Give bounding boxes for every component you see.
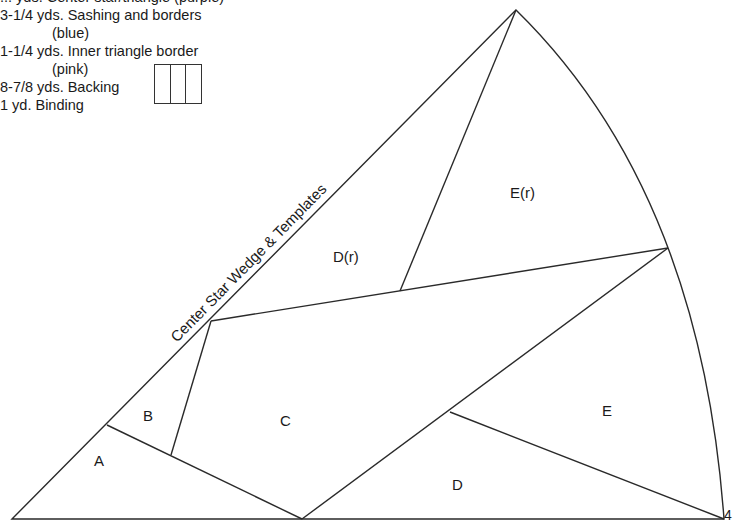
seam-d-e	[450, 412, 724, 519]
piece-label-er: E(r)	[510, 184, 535, 201]
wedge-title: Center Star Wedge & Templates	[167, 180, 330, 345]
wedge-outline	[12, 10, 724, 519]
piece-label-a: A	[94, 452, 104, 469]
piece-label-b: B	[143, 407, 153, 424]
seam-c-dr	[211, 248, 668, 321]
piece-label-e: E	[602, 402, 612, 419]
wedge-diagram: Center Star Wedge & Templates A B C D E …	[0, 0, 733, 521]
seam-dr-er	[400, 10, 516, 291]
corner-mark: 4	[724, 507, 732, 521]
seam-c-d	[302, 248, 668, 519]
piece-label-c: C	[280, 412, 291, 429]
piece-label-dr: D(r)	[333, 248, 359, 265]
seam-a-b	[107, 425, 302, 519]
piece-label-d: D	[452, 476, 463, 493]
